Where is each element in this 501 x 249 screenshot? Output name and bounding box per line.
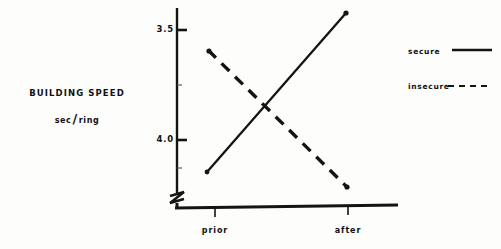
series-point-insecure-after	[344, 184, 349, 189]
x-axis-spine	[175, 205, 398, 208]
series-point-secure-prior	[205, 170, 210, 175]
line-chart-figure: BUILDING SPEED sec/ring 3.5 4.0 prior af…	[0, 0, 501, 249]
series-line-secure	[207, 13, 346, 172]
series-point-secure-after	[343, 10, 348, 15]
series-line-insecure	[208, 50, 348, 188]
series-point-insecure-prior	[206, 48, 211, 53]
y-axis-break-icon	[170, 192, 184, 203]
chart-canvas	[0, 0, 501, 249]
